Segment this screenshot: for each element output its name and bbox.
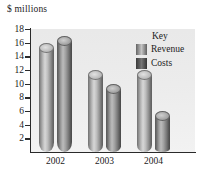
bar-body (106, 89, 121, 152)
bar-costs-2004 (155, 111, 170, 152)
bar-top-cap (106, 84, 121, 94)
bar-costs-2003 (106, 84, 121, 152)
bar-body (39, 48, 54, 152)
bar-top-cap (137, 70, 152, 80)
legend-swatch-revenue-icon (136, 44, 147, 55)
bar-top-cap (39, 43, 54, 53)
bar-top-cap (155, 111, 170, 121)
y-axis-tick (25, 84, 31, 85)
y-axis-tick-label: 2 (2, 133, 24, 143)
y-axis-tick (25, 29, 31, 30)
y-axis-tick-label: 10 (2, 79, 24, 89)
y-axis-line (30, 28, 31, 153)
bar-body (137, 75, 152, 152)
legend-label-costs: Costs (151, 58, 172, 68)
bar-body (155, 116, 170, 152)
bar-revenue-2004 (137, 70, 152, 152)
x-axis-tick-label-2002: 2002 (46, 156, 65, 166)
bar-chart-figure: $ millions 24681012141618 200220032004 K… (0, 0, 211, 185)
y-axis-tick-label: 6 (2, 106, 24, 116)
y-axis-tick-label: 12 (2, 65, 24, 75)
legend-label-revenue: Revenue (151, 44, 184, 54)
y-axis-tick-label: 16 (2, 38, 24, 48)
bar-top-cap (88, 70, 103, 80)
legend-swatch-costs-icon (136, 58, 147, 69)
y-axis-tick-label: 14 (2, 51, 24, 61)
legend-item-revenue: Revenue (136, 42, 198, 56)
y-axis-tick (25, 111, 31, 112)
bar-top-cap (57, 36, 72, 46)
y-axis-tick (25, 43, 31, 44)
y-axis-tick (25, 97, 31, 98)
bar-costs-2002 (57, 36, 72, 152)
bar-body (57, 41, 72, 152)
x-axis-line (30, 152, 196, 153)
y-axis-tick (25, 125, 31, 126)
y-axis-tick (25, 70, 31, 71)
y-axis-tick-label: 8 (2, 92, 24, 102)
legend-title: Key (152, 31, 198, 42)
x-axis-tick-label-2004: 2004 (144, 156, 163, 166)
y-axis-tick (25, 56, 31, 57)
y-axis-tick-label: 18 (2, 24, 24, 34)
y-axis-tick-label: 4 (2, 120, 24, 130)
y-axis-labels: 24681012141618 (0, 0, 24, 185)
bar-revenue-2003 (88, 70, 103, 152)
bar-body (88, 75, 103, 152)
bar-revenue-2002 (39, 43, 54, 152)
y-axis-tick (25, 138, 31, 139)
chart-legend: Key Revenue Costs (136, 31, 198, 70)
x-axis-tick-label-2003: 2003 (95, 156, 114, 166)
legend-item-costs: Costs (136, 56, 198, 70)
